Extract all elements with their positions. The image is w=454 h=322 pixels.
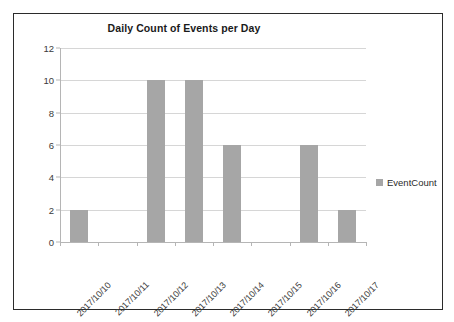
bar[interactable] [300, 145, 318, 242]
bar-slot [60, 48, 98, 242]
x-tick-mark [175, 242, 176, 246]
y-axis-tick-label: 2 [49, 204, 54, 215]
plot-area: 024681012 2017/10/102017/10/112017/10/12… [60, 48, 366, 242]
x-tick-mark [328, 242, 329, 246]
x-axis-tick-label: 2017/10/14 [228, 280, 266, 318]
x-axis-tick-label: 2017/10/10 [75, 280, 113, 318]
y-axis-tick-label: 6 [49, 140, 54, 151]
x-axis-tick-label: 2017/10/11 [113, 280, 151, 318]
legend-label: EventCount [387, 177, 437, 188]
x-tick-mark [251, 242, 252, 246]
legend-swatch-icon [376, 179, 383, 186]
chart-frame: Daily Count of Events per Day 024681012 … [13, 13, 443, 310]
bar-slot [175, 48, 213, 242]
x-axis-tick-label: 2017/10/13 [190, 280, 228, 318]
x-axis-tick-label: 2017/10/12 [151, 280, 189, 318]
x-tick-mark [290, 242, 291, 246]
bar-slot [290, 48, 328, 242]
x-tick-mark [213, 242, 214, 246]
x-tick-mark [137, 242, 138, 246]
bar-slot [328, 48, 366, 242]
bar[interactable] [185, 80, 203, 242]
bar-slot [137, 48, 175, 242]
x-axis-tick-label: 2017/10/15 [266, 280, 304, 318]
y-axis-tick-label: 10 [43, 75, 54, 86]
bar-slot [251, 48, 289, 242]
x-tick-mark [98, 242, 99, 246]
bar[interactable] [223, 145, 241, 242]
x-tick-mark [366, 242, 367, 246]
y-axis-tick-label: 12 [43, 43, 54, 54]
bar[interactable] [70, 210, 88, 242]
legend: EventCount [376, 177, 437, 188]
bar[interactable] [338, 210, 356, 242]
bar-slot [98, 48, 136, 242]
x-axis-tick-label: 2017/10/17 [343, 280, 381, 318]
bar-slot [213, 48, 251, 242]
y-axis-tick-label: 8 [49, 107, 54, 118]
y-axis-tick-label: 0 [49, 237, 54, 248]
bar[interactable] [147, 80, 165, 242]
chart-title: Daily Count of Events per Day [14, 22, 354, 34]
y-axis-tick-label: 4 [49, 172, 54, 183]
x-tick-mark [60, 242, 61, 246]
x-axis-tick-label: 2017/10/16 [304, 280, 342, 318]
